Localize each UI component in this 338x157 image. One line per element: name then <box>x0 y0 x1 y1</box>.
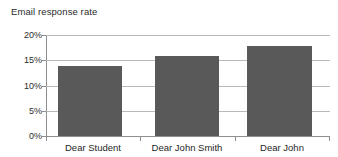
y-tick-label-10: 10% <box>24 81 42 91</box>
y-axis-tick-labels: 20% 15% 10% 5% 0% <box>0 0 42 157</box>
x-tick-mark-2 <box>235 136 236 141</box>
bar-dear-john <box>247 46 312 136</box>
x-category-label-dear-john: Dear John <box>260 142 304 153</box>
bar-dear-john-smith <box>155 56 219 136</box>
y-tick-label-0: 0% <box>29 131 42 141</box>
x-category-label-dear-student: Dear Student <box>65 142 121 153</box>
x-axis: Dear Student Dear John Smith Dear John <box>46 136 330 157</box>
x-tick-mark-end <box>329 136 330 141</box>
plot-area <box>46 35 330 136</box>
x-tick-mark-1 <box>140 136 141 141</box>
y-tick-label-15: 15% <box>24 55 42 65</box>
gridline-20 <box>46 35 330 36</box>
bar-dear-student <box>58 66 122 136</box>
x-tick-mark-start <box>46 136 47 141</box>
y-tick-label-5: 5% <box>29 106 42 116</box>
x-category-label-dear-john-smith: Dear John Smith <box>152 142 223 153</box>
email-response-rate-bar-chart: Email response rate 20% 15% 10% 5% 0% De… <box>0 0 338 157</box>
y-tick-label-20: 20% <box>24 30 42 40</box>
